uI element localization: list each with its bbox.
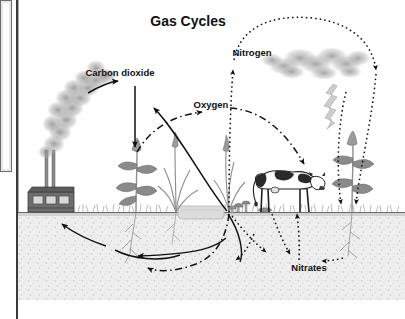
carbon-dioxide-label: Carbon dioxide	[85, 67, 154, 78]
pond	[178, 206, 224, 219]
page-title: Gas Cycles	[150, 13, 226, 29]
diagram-canvas: Gas Cycles Carbon dioxide Oxygen Nitroge…	[0, 0, 405, 319]
nitrates-label: Nitrates	[291, 262, 326, 273]
oxygen-label: Oxygen	[194, 99, 229, 110]
soil-layer	[18, 212, 405, 319]
nitrogen-label: Nitrogen	[232, 47, 271, 58]
manure-patch	[258, 208, 272, 213]
gas-cycles-diagram: Gas Cycles Carbon dioxide Oxygen Nitroge…	[0, 0, 405, 319]
left-side-panel	[1, 1, 12, 172]
